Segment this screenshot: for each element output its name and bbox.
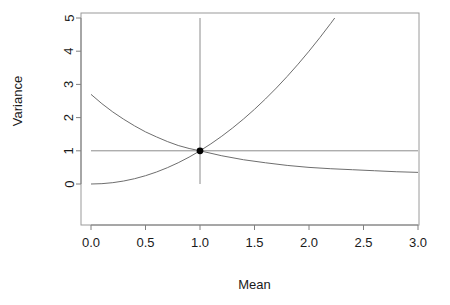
y-tick-label: 2 [62, 114, 77, 121]
y-tick-label: 4 [62, 48, 77, 55]
x-tick-label: 3.0 [409, 235, 427, 250]
y-tick-label: 1 [62, 147, 77, 154]
x-tick-label: 0.5 [136, 235, 154, 250]
chart-container: 0.00.51.01.52.02.53.0 012345 Mean Varian… [0, 0, 450, 305]
x-tick-label: 2.0 [300, 235, 318, 250]
x-tick-label: 1.0 [191, 235, 209, 250]
y-tick-label: 5 [62, 14, 77, 21]
x-tick-label: 2.5 [354, 235, 372, 250]
annotation-crossing-point [197, 147, 204, 154]
y-tick-label: 0 [62, 180, 77, 187]
y-tick-label: 3 [62, 81, 77, 88]
x-axis-title: Mean [238, 277, 271, 292]
y-axis-title: Variance [10, 76, 25, 126]
x-tick-label: 0.0 [82, 235, 100, 250]
annotation-layer [197, 147, 204, 154]
variance-vs-mean-chart: 0.00.51.01.52.02.53.0 012345 Mean Varian… [0, 0, 450, 305]
x-tick-label: 1.5 [245, 235, 263, 250]
